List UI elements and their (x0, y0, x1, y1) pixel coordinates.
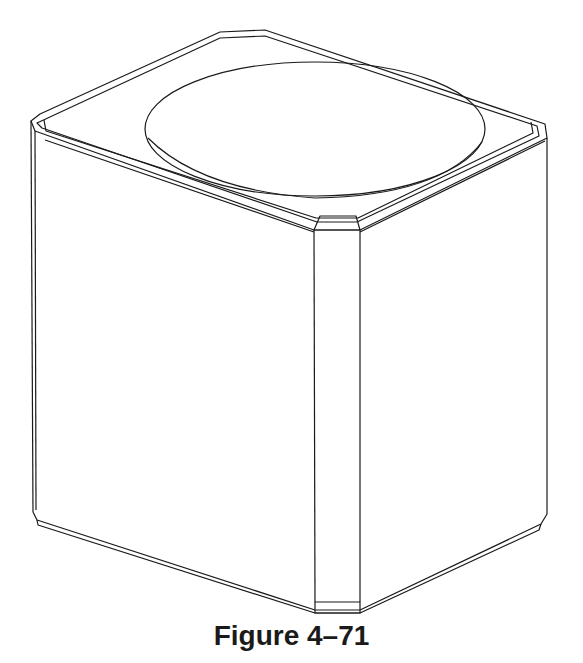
top-face-rim-2 (44, 120, 533, 218)
left-edge-inner (35, 131, 36, 510)
bottom-outline (33, 512, 547, 610)
boss-top-ellipse (145, 62, 485, 196)
bottom-outline-inner (37, 520, 541, 613)
top-face-rim-3 (45, 140, 545, 232)
top-face-rim-1 (37, 36, 539, 222)
isometric-block-drawing (0, 0, 583, 663)
bottom-front-chamfer (315, 602, 360, 613)
front-edge-left (314, 230, 315, 602)
left-edge (31, 121, 33, 512)
figure-caption: Figure 4–71 (0, 620, 583, 652)
top-face-outer (31, 30, 547, 230)
